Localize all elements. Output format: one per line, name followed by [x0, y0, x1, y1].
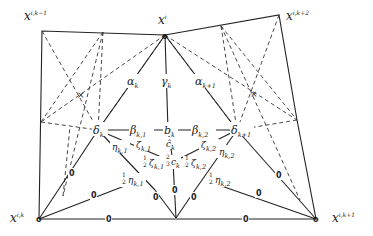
frac-half-eta-k1-num: 1: [122, 171, 126, 178]
zero-label: 0: [172, 186, 178, 195]
frac-half-zeta-k2-num: 1: [185, 154, 189, 161]
vertex-marker-x-i-k: o: [36, 215, 42, 224]
zero-label: 0: [276, 171, 282, 180]
vertex-x-i-k-plus-1-label: xi,k+1: [332, 211, 355, 225]
zero-label: 0: [191, 193, 197, 202]
frac-half-eta-k2-num: 1: [209, 171, 213, 178]
zero-label: 0: [256, 189, 262, 198]
vertex-labels: xi,k−1 xi xi,k+2 xi,k xi,k+1: [10, 9, 355, 225]
frac-half-zeta-k1-den: 2: [143, 161, 147, 168]
frac-two-thirds-num: 2: [166, 153, 170, 160]
zero-label: 0: [69, 169, 75, 178]
zero-label: 0: [106, 215, 112, 224]
frac-half-eta-k2-den: 2: [209, 178, 213, 185]
frac-half-zeta-k2-den: 2: [185, 161, 189, 168]
zero-label: 0: [153, 193, 159, 202]
cross-marker-right: ×: [250, 89, 258, 99]
zero-label: 0: [91, 191, 97, 200]
upper-labels: αk γk αk+1: [125, 74, 218, 90]
cross-marker-left: ×: [77, 90, 85, 100]
frac-half-zeta-k1-num: 1: [143, 154, 147, 161]
frac-half-eta-k1-den: 2: [122, 178, 126, 185]
frac-two-thirds-den: 3: [166, 160, 170, 167]
vertex-x-i-k-plus-2-label: xi,k+2: [286, 9, 309, 23]
finite-element-diagram: xi,k−1 xi xi,k+2 xi,k xi,k+1 o o o αk γk…: [0, 0, 373, 236]
vertex-x-i-label: xi: [158, 13, 167, 27]
vertex-marker-x-i-k-plus-1: o: [313, 215, 319, 224]
zero-label: 0: [243, 215, 249, 224]
vertex-x-i-k-label: xi,k: [10, 211, 25, 225]
left-dashed-lines: [41, 31, 165, 196]
vertex-x-i-k-minus-1-label: xi,k−1: [24, 9, 47, 23]
vertex-marker-x-i: o: [162, 32, 168, 41]
